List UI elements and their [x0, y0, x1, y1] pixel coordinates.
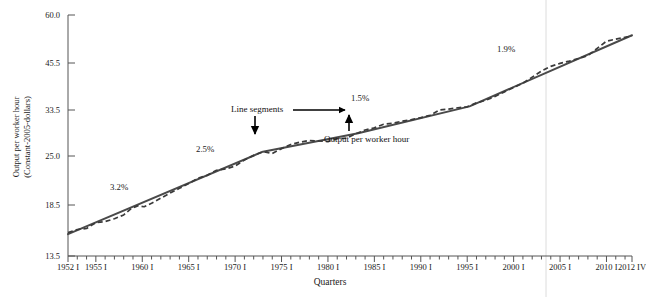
y-tick-label-60: 60.0: [26, 10, 60, 20]
x-tick-label-2010-I: 2010 I: [596, 262, 618, 272]
x-tick-label-2012-IV: 2012 IV: [618, 262, 646, 272]
x-tick-label-1970-I: 1970 I: [224, 262, 246, 272]
annotation-growth-3_2: 3.2%: [110, 182, 128, 192]
x-tick-label-1960-I: 1960 I: [131, 262, 153, 272]
x-tick-label-1995-I: 1995 I: [456, 262, 478, 272]
x-tick-label-1980-I: 1980 I: [317, 262, 339, 272]
x-tick-label-1965-I: 1965 I: [178, 262, 200, 272]
y-axis-title-line2: (Constant-2005-dollars): [22, 62, 33, 212]
x-tick-label-1990-I: 1990 I: [410, 262, 432, 272]
x-tick-label-2005-I: 2005 I: [549, 262, 571, 272]
x-tick-label-1985-I: 1985 I: [363, 262, 385, 272]
annotation-line-segments: Line segments: [231, 104, 283, 114]
x-tick-label-1952-I: 1952 I: [57, 262, 79, 272]
y-axis-title-line1: Output per worker hour: [11, 62, 22, 212]
x-tick-label-1955-I: 1955 I: [85, 262, 107, 272]
y-axis-title: Output per worker hour (Constant-2005-do…: [11, 62, 33, 212]
annotation-growth-1_5: 1.5%: [351, 93, 369, 103]
annotation-growth-2_5: 2.5%: [196, 144, 214, 154]
y-axis-ticks: [68, 15, 75, 256]
annotation-output-per-worker-hour: Output per worker hour: [324, 134, 409, 144]
annotation-growth-1_9: 1.9%: [497, 44, 515, 54]
x-tick-label-2000-I: 2000 I: [503, 262, 525, 272]
y-tick-label-13_5: 13.5: [26, 251, 60, 261]
x-axis-title: Quarters: [314, 277, 347, 287]
x-tick-label-1975-I: 1975 I: [271, 262, 293, 272]
